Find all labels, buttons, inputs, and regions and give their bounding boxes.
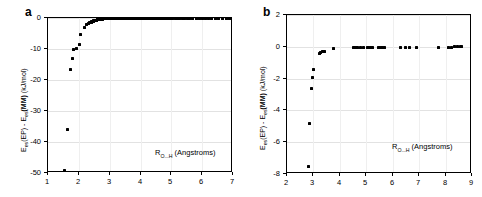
x-axis-tick-label: 2 [76, 177, 80, 186]
x-axis-tick-label: 4 [337, 178, 341, 187]
y-axis-tick-label: -30 [19, 106, 41, 115]
y-title-e: E [259, 145, 266, 150]
gridline-vertical [141, 18, 142, 171]
data-point [71, 57, 74, 60]
y-title-e: E [20, 147, 27, 152]
x-axis-tick [140, 172, 141, 175]
data-point [308, 122, 311, 125]
data-point [415, 46, 418, 49]
x-axis-tick [445, 173, 446, 176]
data-point [66, 128, 69, 131]
x-axis-tick [78, 172, 79, 175]
data-point [191, 17, 194, 20]
gridline-horizontal [287, 15, 470, 16]
x-axis-tick [365, 173, 366, 176]
y-axis-tick-label: -40 [19, 137, 41, 146]
data-point [408, 46, 411, 49]
x-axis-tick-label: 1 [45, 177, 49, 186]
data-point [323, 50, 326, 53]
panel-b: b Ees(EP) - Ees(MM) (kJ/mol) 20-2-4-6-82… [241, 0, 482, 197]
y-axis-tick [44, 48, 47, 49]
gridline-vertical [79, 18, 80, 171]
y-axis-tick [44, 110, 47, 111]
data-point [79, 33, 82, 36]
data-point [307, 165, 310, 168]
x-title-sub-oh: O...H [397, 147, 409, 153]
y-axis-tick-label: -6 [258, 137, 280, 146]
panel-a-x-axis-title: RO...H (Angstroms) [155, 148, 215, 159]
x-axis-tick [232, 172, 233, 175]
x-axis-tick [418, 173, 419, 176]
x-axis-tick [312, 173, 313, 176]
data-point [75, 47, 78, 50]
x-axis-tick-label: 6 [199, 177, 203, 186]
y-axis-tick-label: 2 [258, 10, 280, 19]
y-axis-tick-label: -10 [19, 44, 41, 53]
gridline-horizontal [48, 80, 231, 81]
data-point [399, 46, 402, 49]
data-point [460, 45, 463, 48]
data-point [437, 46, 440, 49]
data-point [371, 46, 374, 49]
data-point [214, 17, 217, 20]
x-axis-tick-label: 6 [390, 178, 394, 187]
x-axis-tick-label: 8 [443, 178, 447, 187]
y-axis-tick [283, 109, 286, 110]
data-point [83, 26, 86, 29]
x-axis-tick-label: 2 [284, 178, 288, 187]
x-axis-tick [339, 173, 340, 176]
x-axis-tick-label: 3 [310, 178, 314, 187]
y-axis-tick-label: 0 [19, 13, 41, 22]
data-point [404, 46, 407, 49]
x-axis-tick-label: 4 [138, 177, 142, 186]
x-axis-tick-label: 5 [168, 177, 172, 186]
data-point [383, 46, 386, 49]
data-point [362, 46, 365, 49]
x-axis-tick-label: 3 [107, 177, 111, 186]
figure-container: a Ees(EP) - Ees(MM) (kJ/mol) RO...H (Ang… [0, 0, 482, 197]
x-title-units: (Angstroms) [173, 148, 216, 157]
x-title-units: (Angstroms) [410, 142, 453, 151]
y-axis-tick [283, 141, 286, 142]
gridline-horizontal [48, 142, 231, 143]
gridline-vertical [313, 15, 314, 172]
y-axis-tick-label: -20 [19, 75, 41, 84]
x-axis-tick [392, 173, 393, 176]
data-point [225, 17, 228, 20]
data-point [332, 47, 335, 50]
x-axis-tick [47, 172, 48, 175]
x-axis-tick [170, 172, 171, 175]
y-axis-tick-label: -4 [258, 105, 280, 114]
y-axis-tick [283, 14, 286, 15]
panel-a: a Ees(EP) - Ees(MM) (kJ/mol) RO...H (Ang… [0, 0, 241, 197]
x-axis-tick [201, 172, 202, 175]
gridline-horizontal [48, 111, 231, 112]
x-axis-tick-label: 5 [363, 178, 367, 187]
y-axis-tick-label: -2 [258, 74, 280, 83]
x-axis-tick-label: 9 [469, 178, 473, 187]
data-point [310, 87, 313, 90]
data-point [231, 17, 232, 20]
y-axis-tick [44, 79, 47, 80]
y-axis-tick-label: -8 [258, 169, 280, 178]
gridline-horizontal [287, 110, 470, 111]
x-axis-tick [286, 173, 287, 176]
x-axis-tick-label: 7 [230, 177, 234, 186]
data-point [63, 169, 66, 172]
y-axis-tick-label: -50 [19, 168, 41, 177]
data-point [312, 68, 315, 71]
gridline-horizontal [287, 79, 470, 80]
y-axis-tick [283, 46, 286, 47]
data-point [221, 17, 224, 20]
data-point [217, 17, 220, 20]
x-axis-tick [471, 173, 472, 176]
data-point [78, 43, 81, 46]
x-axis-tick [109, 172, 110, 175]
panel-b-x-axis-title: RO...H (Angstroms) [392, 142, 452, 153]
y-axis-tick [44, 17, 47, 18]
y-axis-tick [283, 78, 286, 79]
gridline-vertical [340, 15, 341, 172]
y-axis-tick [44, 141, 47, 142]
data-point [69, 68, 72, 71]
x-title-sub-oh: O...H [160, 153, 172, 159]
